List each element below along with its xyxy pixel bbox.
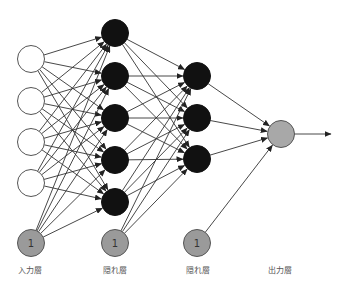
connection-edge [122,88,189,191]
bias-value: 1 [112,238,118,249]
connection-edge [122,44,189,147]
connection-edge [205,145,272,232]
bias-value: 1 [28,238,34,249]
hidden-neuron [102,105,129,132]
connection-edge [36,46,110,230]
output-layer-label: 出力層 [250,264,310,275]
hidden-neuron [102,189,129,216]
connection-edge [124,169,187,233]
neural-network-diagram: 111 [0,0,343,286]
hidden-neuron [102,63,129,90]
connection-edge [41,42,104,93]
input-layer-label: 入力層 [0,264,60,275]
connection-edge [44,37,102,55]
hidden-neuron [102,20,129,47]
connection-edge [38,45,109,171]
input-neuron [18,88,45,115]
connection-edge [124,43,187,108]
connection-edge [208,84,269,126]
hidden-layer-2-label: 隠れ層 [168,264,228,275]
input-neuron [18,129,45,156]
hidden-layer-1-label: 隠れ層 [85,264,145,275]
connection-edge [210,121,267,132]
output-neuron [268,121,295,148]
connection-edge [39,44,106,131]
hidden-neuron [184,146,211,173]
connection-edge [41,170,105,234]
connection-edge [210,138,268,155]
bias-value: 1 [194,238,200,249]
input-neuron [18,46,45,73]
hidden-neuron [184,105,211,132]
hidden-neuron [184,63,211,90]
input-neuron [18,170,45,197]
hidden-neuron [102,147,129,174]
connection-edge [122,130,189,232]
